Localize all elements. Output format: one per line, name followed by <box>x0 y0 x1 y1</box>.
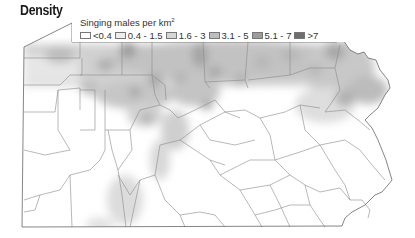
legend-item-5: 5.1 - 7 <box>252 30 292 41</box>
swatch-5-1-7 <box>252 32 263 39</box>
legend-item-3: 1.6 - 3 <box>166 30 206 41</box>
legend-item-2: 0.4 - 1.5 <box>115 30 163 41</box>
legend-item-4: 3.1 - 5 <box>209 30 249 41</box>
swatch-lt-0-4 <box>80 32 91 39</box>
swatch-1-6-3 <box>166 32 177 39</box>
density-shading <box>24 40 388 233</box>
legend-title: Singing males per km2 <box>80 17 175 28</box>
swatch-0-4-1-5 <box>115 32 126 39</box>
swatch-gt-7 <box>294 32 305 39</box>
legend: Singing males per km2 <0.4 0.4 - 1.5 1.6… <box>72 14 345 42</box>
legend-item-6: >7 <box>294 30 318 41</box>
legend-item-1: <0.4 <box>80 30 112 41</box>
legend-classes: <0.4 0.4 - 1.5 1.6 - 3 3.1 - 5 5.1 - 7 >… <box>80 30 321 41</box>
swatch-3-1-5 <box>209 32 220 39</box>
